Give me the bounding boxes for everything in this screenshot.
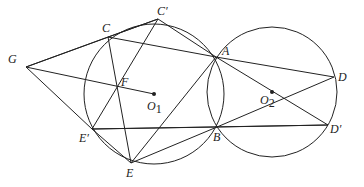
label-cp: C′ bbox=[157, 4, 168, 18]
circles-group bbox=[84, 24, 337, 164]
segment-b-e bbox=[131, 127, 217, 163]
segment-c-cp bbox=[108, 19, 158, 37]
label-c: C bbox=[102, 21, 111, 35]
center-dots-group bbox=[152, 90, 274, 96]
segment-b-d bbox=[217, 77, 334, 127]
label-ep: E′ bbox=[78, 131, 89, 145]
label-f: F bbox=[120, 75, 129, 89]
label-a: A bbox=[221, 44, 230, 58]
segment-g-ep bbox=[26, 67, 92, 129]
segment-ep-e bbox=[92, 129, 131, 163]
segment-ep-dp bbox=[92, 125, 328, 129]
center-dot-o1 bbox=[152, 92, 156, 96]
label-o1: O1 bbox=[147, 99, 162, 116]
segment-g-o1 bbox=[26, 67, 154, 94]
segment-a-e bbox=[131, 57, 216, 163]
geometry-diagram: GCC′FO1ADO2D′BE′E bbox=[0, 0, 364, 187]
segment-c-e bbox=[108, 37, 131, 163]
label-d: D bbox=[337, 70, 347, 84]
label-dp: D′ bbox=[329, 122, 342, 136]
center-dot-o2 bbox=[270, 90, 274, 94]
segments-group bbox=[26, 19, 334, 163]
label-g: G bbox=[8, 52, 17, 66]
segment-a-d bbox=[216, 57, 334, 77]
point-labels-group: GCC′FO1ADO2D′BE′E bbox=[8, 4, 347, 180]
label-e: E bbox=[125, 166, 134, 180]
segment-c-a bbox=[108, 37, 216, 57]
label-b: B bbox=[213, 130, 221, 144]
